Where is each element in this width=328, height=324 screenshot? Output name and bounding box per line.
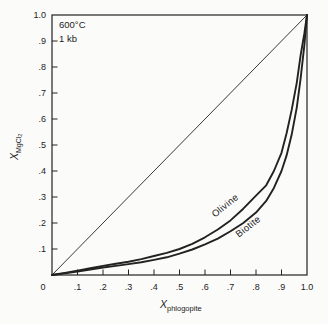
x-tick-label: .8	[252, 282, 260, 292]
x-axis-tick-labels: 0.1.2.3.4.5.6.7.8.91.0	[40, 282, 313, 292]
pressure-annotation: 1 kb	[59, 33, 77, 44]
y-tick-label: .7	[38, 88, 46, 98]
x-tick-label: .7	[227, 282, 235, 292]
y-tick-label: .5	[38, 140, 46, 150]
x-axis-title-subscript: phlogopite	[167, 304, 202, 313]
diagonal-reference-line	[52, 15, 307, 275]
x-tick-label: .3	[125, 282, 133, 292]
y-tick-label: .4	[38, 166, 46, 176]
biotite-curve-label: Biotite	[233, 213, 262, 239]
y-tick-label: 1.0	[33, 10, 46, 20]
temperature-annotation: 600°C	[59, 19, 86, 30]
x-tick-label: .1	[74, 282, 82, 292]
x-tick-label: .6	[201, 282, 209, 292]
y-axis-title-subscript-2: 2	[17, 134, 23, 137]
y-tick-label: .3	[38, 192, 46, 202]
x-tick-label: 0	[40, 282, 45, 292]
y-axis-title-subscript: MgCl	[15, 136, 23, 153]
x-tick-label: .2	[99, 282, 107, 292]
chart: 0.1.2.3.4.5.6.7.8.91.0.1.2.3.4.5.6.7.8.9…	[0, 0, 328, 324]
y-tick-label: .2	[38, 218, 46, 228]
x-tick-label: .9	[278, 282, 286, 292]
x-tick-label: .4	[150, 282, 158, 292]
x-tick-label: 1.0	[301, 282, 314, 292]
y-tick-label: .6	[38, 114, 46, 124]
exchange-isotherm-figure: 0.1.2.3.4.5.6.7.8.91.0.1.2.3.4.5.6.7.8.9…	[0, 0, 328, 324]
y-tick-label: .8	[38, 62, 46, 72]
y-tick-label: .1	[38, 244, 46, 254]
x-axis-ticks	[78, 270, 282, 276]
y-tick-label: .9	[38, 36, 46, 46]
y-axis-title: XMgCl2	[8, 134, 23, 161]
y-axis-tick-labels: .1.2.3.4.5.6.7.8.91.0	[33, 10, 46, 254]
y-axis-ticks	[52, 41, 58, 249]
x-axis-title: Xphlogopite	[159, 298, 202, 313]
x-tick-label: .5	[176, 282, 184, 292]
